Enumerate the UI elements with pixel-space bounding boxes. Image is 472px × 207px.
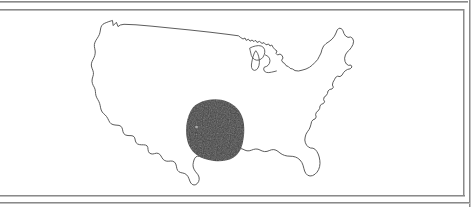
frame-outer-bottom-rule-shadow [0, 203, 470, 204]
scan-speck [195, 126, 198, 128]
us-outline-map-icon [0, 11, 463, 195]
map-plate [0, 11, 463, 195]
frame-outer-top-rule-shadow [0, 2, 468, 3]
shaded-region-icon [186, 99, 244, 161]
frame-inner-bottom-rule-shadow [0, 196, 465, 197]
figure-page [0, 0, 472, 207]
frame-outer-right-rule-shadow [470, 0, 471, 207]
frame-inner-right-rule-shadow [464, 9, 465, 196]
lake-michigan-path [251, 51, 259, 70]
lake-huron-erie-path [264, 55, 277, 73]
